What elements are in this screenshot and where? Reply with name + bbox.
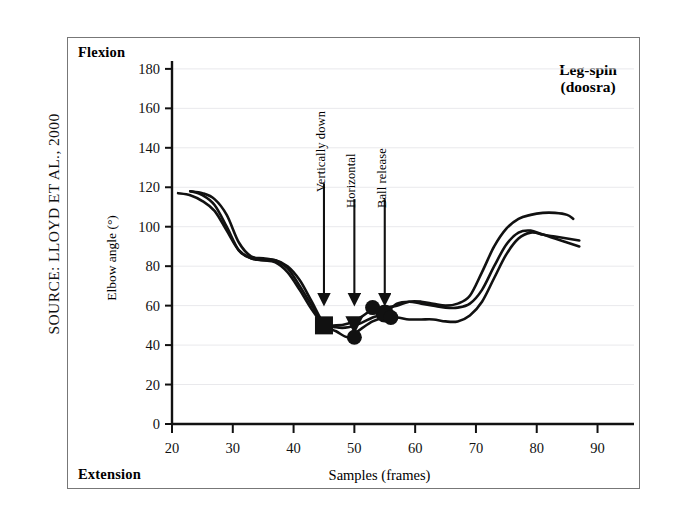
- annotation-label: Vertically down: [314, 111, 329, 192]
- chart-page: SOURCE: LLOYD ET AL., 2000 Flexion Exten…: [0, 0, 673, 519]
- x-axis-tick-label: 80: [529, 440, 544, 456]
- x-axis-tick-label: 20: [165, 440, 180, 456]
- annotation-label: Horizontal: [344, 154, 359, 208]
- source-credit-text: SOURCE: LLOYD ET AL., 2000: [45, 113, 62, 334]
- x-axis-tick-label: 40: [286, 440, 301, 456]
- x-axis-tick-label: 90: [590, 440, 605, 456]
- event-marker: [365, 300, 380, 315]
- y-axis-tick-label: 80: [146, 258, 161, 274]
- source-credit: SOURCE: LLOYD ET AL., 2000: [45, 74, 63, 374]
- plot-area: 0204060801001201401601802030405060708090: [68, 38, 639, 488]
- y-axis-tick-label: 0: [153, 416, 160, 432]
- y-axis-tick-label: 40: [146, 337, 161, 353]
- annotation-label: Ball release: [375, 148, 390, 208]
- event-marker: [347, 330, 362, 345]
- y-axis-tick-label: 140: [138, 140, 160, 156]
- y-axis-tick-label: 100: [138, 219, 160, 235]
- x-axis-tick-label: 70: [469, 440, 484, 456]
- y-axis-tick-label: 180: [138, 61, 160, 77]
- y-axis-tick-label: 120: [138, 179, 160, 195]
- event-marker: [383, 310, 398, 325]
- y-axis-tick-label: 20: [146, 377, 161, 393]
- event-marker: [315, 316, 333, 334]
- x-axis-tick-label: 60: [408, 440, 423, 456]
- y-axis-tick-label: 160: [138, 100, 160, 116]
- y-axis-tick-label: 60: [146, 298, 161, 314]
- chart-frame: Flexion Extension Leg-spin (doosra) Elbo…: [67, 37, 640, 489]
- x-axis-tick-label: 50: [347, 440, 362, 456]
- x-axis-tick-label: 30: [226, 440, 241, 456]
